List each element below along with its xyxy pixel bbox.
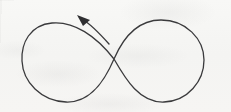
- direction-arrowhead-icon: [77, 15, 90, 26]
- curve-drawing-layer: [0, 0, 231, 112]
- figure-eight-curve: [22, 20, 204, 102]
- lemniscate-figure: [0, 0, 231, 112]
